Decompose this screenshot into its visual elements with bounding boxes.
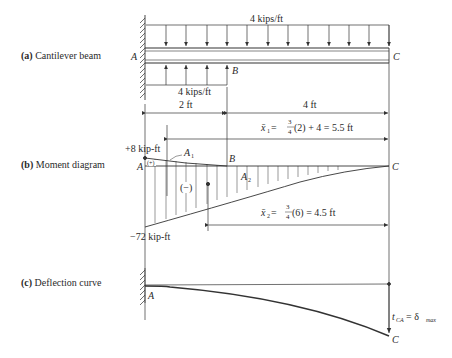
beam	[145, 48, 389, 63]
svg-text:A: A	[240, 171, 248, 182]
svg-text:2: 2	[267, 213, 270, 219]
fixed-support-wall-a	[140, 15, 145, 100]
moment-negative-value: −72 kip-ft	[130, 231, 171, 242]
panel-a-labels: (a) Cantilever beam	[21, 50, 101, 62]
panel-b-label: (b) Moment diagram	[21, 159, 105, 171]
svg-text:1: 1	[191, 153, 194, 159]
svg-text:4: 4	[286, 213, 290, 221]
svg-text:4: 4	[288, 128, 292, 136]
centroid-x1-formula: x̄ 1 = 3 4 (2) + 4 = 5.5 ft	[260, 118, 353, 136]
svg-text:= δ: = δ	[406, 311, 419, 322]
point-a-label: A	[130, 51, 138, 62]
point-c-label: C	[393, 51, 400, 62]
point-b-label: B	[232, 65, 238, 76]
fixed-support-wall-c	[140, 268, 145, 305]
svg-text:x̄: x̄	[260, 207, 266, 218]
svg-text:CA: CA	[396, 317, 404, 323]
negative-sign: (−)	[180, 182, 192, 194]
moment-positive-value: +8 kip-ft	[125, 143, 161, 154]
bottom-load-label: 4 kips/ft	[178, 86, 211, 97]
deflection-curve	[145, 283, 390, 336]
downward-distributed-load	[146, 25, 389, 46]
centroid-x1-dimension	[167, 125, 388, 196]
svg-text:3: 3	[288, 118, 292, 126]
panel-a-label: (a) Cantilever beam	[21, 50, 101, 62]
svg-text:3: 3	[286, 203, 290, 211]
svg-text:t: t	[392, 311, 395, 322]
moment-point-c-label: C	[392, 161, 399, 172]
svg-text:=: =	[271, 207, 277, 218]
deflection-tca-label: t CA = δ max	[392, 311, 436, 323]
dimension-4ft: 4 ft	[303, 99, 317, 110]
svg-text:2: 2	[248, 177, 251, 183]
area-a2-label: A 2	[240, 171, 251, 183]
svg-text:A: A	[183, 147, 191, 158]
svg-text:(2) + 4 = 5.5 ft: (2) + 4 = 5.5 ft	[294, 122, 353, 134]
deflection-point-a-label: A	[147, 290, 155, 301]
moment-point-a-label: A	[136, 161, 144, 172]
svg-text:max: max	[426, 317, 436, 323]
panel-c-label: (c) Deflection curve	[21, 277, 102, 289]
svg-text:=: =	[271, 122, 277, 133]
positive-sign: (+)	[147, 160, 154, 167]
area-a1-label: A 1	[183, 147, 194, 159]
dimension-2ft: 2 ft	[179, 99, 193, 110]
cantilever-beam-figure: (a) Cantilever beam A C B	[0, 0, 452, 358]
centroid-x2-formula: x̄ 2 = 3 4 (6) = 4.5 ft	[260, 203, 336, 221]
top-load-label: 4 kips/ft	[250, 13, 283, 24]
deflection-point-c-label: C	[392, 334, 399, 345]
svg-text:1: 1	[267, 128, 270, 134]
moment-point-b-label: B	[229, 153, 235, 164]
upward-distributed-load	[146, 65, 227, 85]
svg-text:x̄: x̄	[260, 122, 266, 133]
svg-text:(6) = 4.5 ft: (6) = 4.5 ft	[292, 207, 336, 219]
